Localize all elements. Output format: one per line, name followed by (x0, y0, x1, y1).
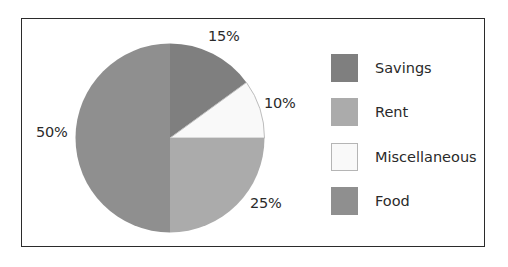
slice-label-savings: 15% (208, 28, 240, 44)
pie-chart (0, 0, 508, 267)
legend-label-food: Food (375, 192, 410, 210)
pie-slices (75, 43, 264, 232)
pie-slice-rent (170, 138, 265, 233)
legend-item-food: Food (331, 187, 491, 215)
legend-swatch-savings (331, 54, 358, 82)
pie-slice-food (75, 43, 170, 232)
slice-label-rent: 25% (250, 195, 282, 211)
legend-item-miscellaneous: Miscellaneous (331, 143, 491, 171)
legend-label-miscellaneous: Miscellaneous (375, 148, 477, 166)
legend-swatch-rent (331, 98, 358, 126)
legend-label-savings: Savings (375, 59, 432, 77)
slice-label-miscellaneous: 10% (264, 95, 296, 111)
legend-swatch-food (331, 187, 358, 215)
slice-label-food: 50% (36, 124, 68, 140)
legend-item-savings: Savings (331, 54, 491, 82)
legend-swatch-miscellaneous (331, 143, 358, 171)
legend-label-rent: Rent (375, 103, 408, 121)
legend-item-rent: Rent (331, 98, 491, 126)
